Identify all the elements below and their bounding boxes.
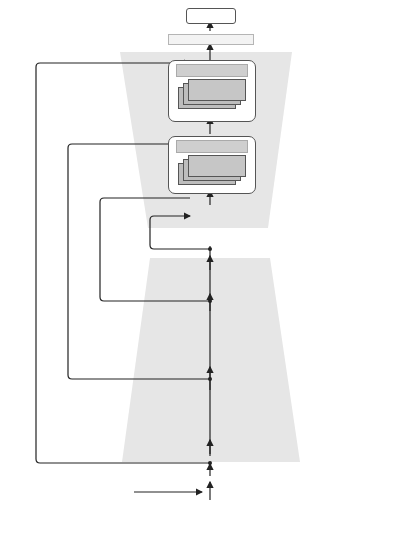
decoder-block-2: [168, 136, 256, 194]
output-conv: [168, 34, 254, 45]
sra-stack: [188, 79, 246, 101]
sra-stack: [188, 155, 246, 177]
decoder-block-1: [168, 60, 256, 122]
output-node: [186, 8, 236, 24]
tconv-label: [176, 64, 248, 77]
tconv-pe-label: [176, 140, 248, 153]
encoder-region: [122, 258, 300, 462]
